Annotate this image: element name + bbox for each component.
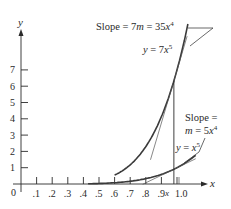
y-axis-arrow-icon: [19, 29, 24, 36]
y-axis-label: y: [17, 16, 23, 28]
y-tick-label: 2: [10, 146, 15, 157]
y-tick-label: 7: [10, 64, 15, 75]
y-tick-label: 3: [10, 130, 15, 141]
x-tick-label: .9: [157, 188, 165, 199]
x-tick-label: .8: [142, 188, 150, 199]
origin-label: 0: [11, 187, 16, 198]
slope-big-leader: [188, 28, 213, 46]
x-tick-label: .7: [126, 188, 134, 199]
y-tick-label: 1: [10, 162, 15, 173]
x-tick-label: .6: [111, 188, 119, 199]
x-axis-label: x: [209, 177, 215, 189]
curve-x5: [88, 155, 196, 184]
x-tick-label: .2: [48, 188, 56, 199]
chart-figure: .1.2.3.4.5.6.7.8.91.01234567 y x 0 x Slo…: [0, 0, 231, 209]
x-marker-label: x: [164, 188, 169, 198]
y-tick-label: 5: [10, 97, 15, 108]
ticks: .1.2.3.4.5.6.7.8.91.01234567: [10, 64, 188, 199]
y-tick-label: 4: [10, 113, 15, 124]
tangent-x5: [143, 159, 196, 185]
curve-small-label: y = x5: [175, 141, 201, 153]
slope-small-annotation-line1: Slope =: [185, 112, 218, 123]
slope-big-annotation: Slope = 7m = 35x4: [96, 20, 174, 32]
x-tick-label: .3: [64, 188, 72, 199]
curve-big-label: y = 7x5: [142, 43, 173, 55]
x-tick-label: .4: [79, 188, 87, 199]
x-axis-arrow-icon: [201, 182, 208, 187]
slope-small-annotation-line2: m = 5x4: [185, 124, 218, 136]
y-tick-label: 6: [10, 81, 15, 92]
x-tick-label: .1: [33, 188, 41, 199]
x-tick-label: 1.0: [175, 188, 188, 199]
x-tick-label: .5: [95, 188, 103, 199]
